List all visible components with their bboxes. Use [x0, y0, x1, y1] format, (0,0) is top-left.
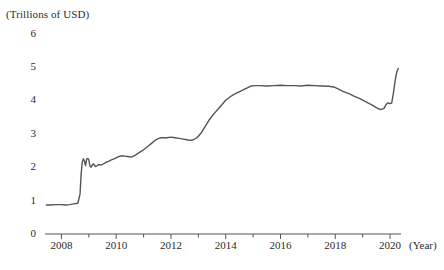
y-tick-label: 2 [14, 161, 36, 172]
y-tick-label: 6 [14, 28, 36, 39]
x-tick-label: 2008 [41, 240, 81, 251]
x-tick-label: 2012 [151, 240, 191, 251]
y-tick-label: 1 [14, 195, 36, 206]
y-tick-label: 4 [14, 94, 36, 105]
y-tick-label: 0 [14, 228, 36, 239]
x-tick-label: 2018 [315, 240, 355, 251]
chart-container: (Trillions of USD) 0123456 2008201020122… [0, 0, 444, 270]
series-line-fed-balance-sheet [46, 69, 398, 205]
x-tick-label: 2020 [370, 240, 410, 251]
y-tick-label: 3 [14, 128, 36, 139]
y-tick-label: 5 [14, 61, 36, 72]
line-chart-plot [0, 0, 444, 270]
x-tick-label: 2014 [206, 240, 246, 251]
x-tick-label: 2010 [96, 240, 136, 251]
x-axis-unit-label: (Year) [409, 239, 437, 251]
data-series-group [46, 69, 398, 205]
x-tick-label: 2016 [261, 240, 301, 251]
